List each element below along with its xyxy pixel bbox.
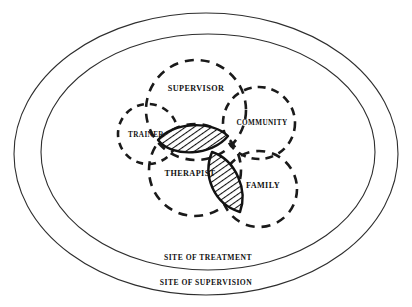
frame-site-of-treatment: SITE OF TREATMENT (41, 34, 375, 270)
therapist-family-intersection (208, 152, 242, 212)
site-of-treatment-label: SITE OF TREATMENT (164, 253, 252, 262)
venn-diagram-svg: SITE OF SUPERVISION SITE OF TREATMENT SU… (0, 0, 412, 307)
site-of-treatment-ellipse (41, 34, 375, 270)
site-of-supervision-label: SITE OF SUPERVISION (160, 278, 253, 287)
community-label: COMMUNITY (236, 119, 288, 127)
venn-diagram-container: SITE OF SUPERVISION SITE OF TREATMENT SU… (0, 0, 412, 307)
supervisor-label: SUPERVISOR (168, 84, 225, 93)
trainer-label: TRAINER (128, 131, 164, 139)
supervisor-therapist-intersection (158, 125, 228, 152)
therapist-label: THERAPIST (165, 169, 216, 178)
family-label: FAMILY (246, 181, 280, 190)
